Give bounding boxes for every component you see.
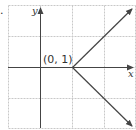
lower-ray — [73, 68, 133, 127]
graph: y x (0, 1) . — [0, 0, 136, 130]
upper-ray — [73, 9, 133, 68]
x-axis-label: x — [128, 68, 134, 79]
bullet-mark: . — [0, 4, 4, 17]
y-axis-label: y — [31, 5, 38, 16]
vertex-label: (0, 1) — [43, 53, 73, 66]
